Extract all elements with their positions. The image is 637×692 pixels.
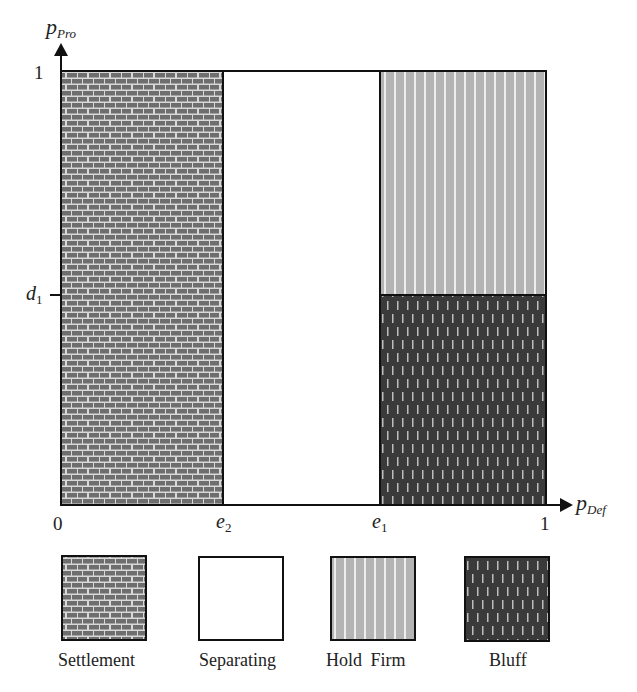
x-axis-arrow-icon (560, 498, 573, 512)
legend-swatch-settlement (62, 556, 146, 640)
region-separating (223, 71, 380, 505)
region-diagram (0, 0, 637, 692)
x-axis-label: pDef (576, 490, 606, 518)
y-axis-label: pPro (46, 14, 76, 42)
y-axis-arrow-icon (54, 43, 68, 56)
legend-swatch-bluff (465, 557, 549, 641)
region-settlement (61, 71, 223, 505)
legend-swatch-hold-firm (331, 557, 415, 640)
legend-label-hold-firm: Hold Firm (326, 650, 406, 671)
region-bluff (380, 295, 546, 505)
y-tick-1: 1 (34, 62, 44, 84)
legend-label-bluff: Bluff (489, 650, 527, 671)
x-tick-1: 1 (540, 513, 550, 535)
region-hold-firm (380, 71, 546, 295)
x-tick-e2: e2 (216, 510, 231, 536)
y-tick-d1: d1 (26, 282, 43, 308)
x-tick-0: 0 (53, 513, 63, 535)
legend-swatch-separating (199, 557, 283, 640)
legend-label-separating: Separating (199, 650, 276, 671)
x-tick-e1: e1 (372, 510, 387, 536)
legend-label-settlement: Settlement (58, 650, 135, 671)
